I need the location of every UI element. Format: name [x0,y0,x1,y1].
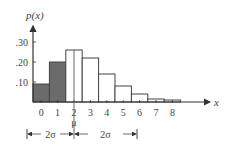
mean-label: μ [71,117,76,128]
x-tick-label: 8 [170,107,175,118]
x-tick-label: 4 [104,107,109,118]
x-axis-label: x [213,96,219,108]
bar-1 [49,62,65,102]
sigma-interval-right: 2σ [75,129,137,140]
histogram-bars [33,50,181,102]
x-tick-label: 6 [137,107,142,118]
x-ticks: 012345678 [39,100,175,118]
probability-histogram: p(x) x .10.20.30 012345678 μ 2σ 2σ [0,0,227,150]
left-2sigma-label: 2σ [45,129,56,140]
y-tick-label: .30 [16,37,29,48]
y-tick-label: .10 [16,77,29,88]
x-tick-label: 0 [39,107,44,118]
x-tick-label: 3 [88,107,93,118]
x-tick-label: 5 [121,107,126,118]
y-axis-label: p(x) [25,9,44,22]
right-2sigma-label: 2σ [100,129,111,140]
sigma-interval-left: 2σ [27,129,73,140]
x-tick-label: 1 [55,107,60,118]
bar-3 [82,58,98,102]
bar-4 [99,74,115,102]
x-tick-label: 7 [154,107,159,118]
bar-5 [115,86,131,102]
y-tick-label: .20 [16,57,29,68]
bar-0 [33,84,49,102]
